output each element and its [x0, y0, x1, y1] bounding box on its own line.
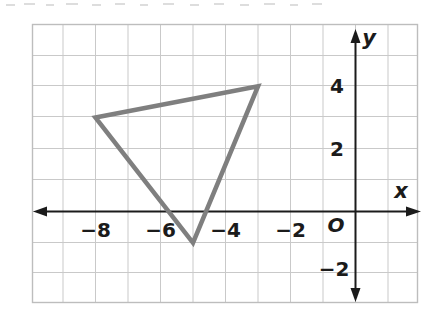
x-tick-label-minus-6: −6 [145, 218, 176, 242]
x-axis-label: x [393, 179, 409, 203]
y-axis-label: y [362, 26, 377, 50]
x-tick-label-minus-2: −2 [275, 218, 306, 242]
coordinate-plane-figure: −8 −6 −4 −2 4 2 −2 O y x [0, 0, 434, 322]
x-tick-label-minus-8: −8 [80, 218, 111, 242]
y-tick-label-minus-2: −2 [319, 257, 350, 281]
y-tick-label-2: 2 [330, 137, 344, 161]
coordinate-plane-svg: −8 −6 −4 −2 4 2 −2 O y x [0, 0, 434, 322]
y-tick-label-4: 4 [330, 74, 344, 98]
x-tick-label-minus-4: −4 [210, 218, 241, 242]
origin-label: O [327, 213, 344, 237]
